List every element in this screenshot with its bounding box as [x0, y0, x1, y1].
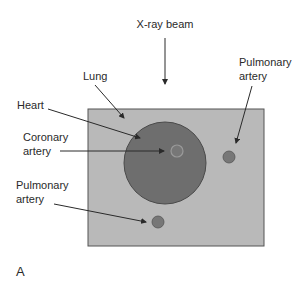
- pulmonary-right-label-line2: artery: [239, 70, 268, 82]
- heart-label: Heart: [17, 99, 44, 111]
- pulmonary-artery-left-shape: [152, 216, 164, 228]
- pulmonary-right-label-line1: Pulmonary: [239, 56, 292, 68]
- panel-label: A: [16, 264, 25, 279]
- coronary-label-line2: artery: [23, 145, 52, 157]
- coronary-label-line1: Coronary: [23, 131, 69, 143]
- pulmonary-left-label-line1: Pulmonary: [16, 179, 69, 191]
- lung-label: Lung: [83, 70, 107, 82]
- pulmonary-left-label-line2: artery: [16, 193, 45, 205]
- xray-diagram: X-ray beam Lung Heart Coronary artery Pu…: [0, 0, 300, 284]
- coronary-artery-shape: [171, 145, 183, 157]
- beam-label: X-ray beam: [137, 18, 194, 30]
- pulmonary-artery-right-shape: [223, 151, 235, 163]
- heart-shape: [124, 122, 206, 204]
